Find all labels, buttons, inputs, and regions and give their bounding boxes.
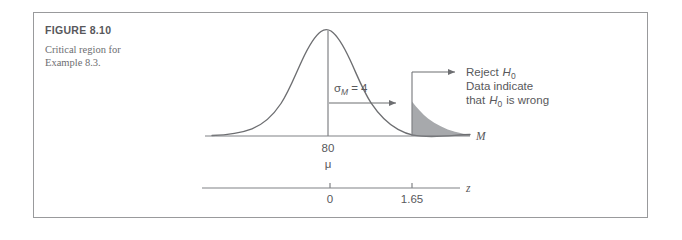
reject-callout-line-2: Data indicate: [466, 80, 533, 92]
distribution-plot: σM= 4 RejectH0 Data indicate thatH0is wr…: [0, 0, 682, 240]
figure-root: FIGURE 8.10 Critical region for Example …: [0, 0, 682, 240]
z-axis-label: z: [465, 182, 471, 194]
reject-word: Reject: [466, 66, 499, 78]
z-axis-tick-zero-label: 0: [327, 193, 333, 205]
sigma-value: = 4: [351, 82, 368, 94]
z-axis-tick-critical-label: 1.65: [401, 193, 423, 205]
sigma-symbol: σ: [334, 82, 341, 94]
sigma-subscript: M: [341, 87, 349, 97]
standard-error-label: σM= 4: [334, 82, 368, 97]
m-axis-tick-value: 80: [322, 142, 335, 154]
normal-curve: [212, 30, 414, 135]
m-axis-label: M: [475, 130, 487, 142]
that-word: that: [466, 94, 486, 106]
reject-callout-line-1: RejectH0: [466, 66, 516, 81]
m-axis-mean-symbol: μ: [325, 158, 332, 170]
is-wrong-words: is wrong: [506, 94, 549, 106]
reject-callout-line-3: thatH0is wrong: [466, 94, 549, 109]
h-null-subscript-2: 0: [498, 99, 503, 109]
critical-region-shading: [412, 102, 470, 137]
